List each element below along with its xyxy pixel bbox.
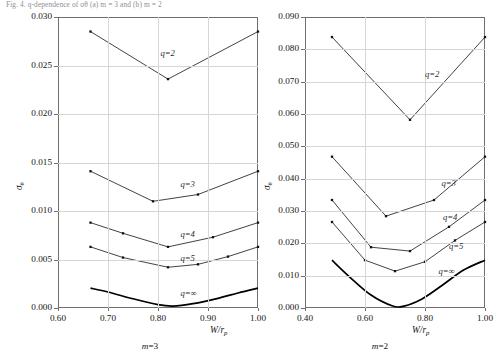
data-point-marker: [409, 119, 411, 121]
y-axis-tick: [301, 243, 305, 244]
y-gridline: [305, 211, 485, 212]
y-gridline: [305, 146, 485, 147]
x-axis-tick-label: 0.40: [283, 313, 327, 323]
y-axis-tick: [301, 17, 305, 18]
data-point-marker: [484, 36, 486, 38]
y-axis-tick-label: 0.060: [253, 109, 299, 118]
x-gridline: [425, 17, 426, 308]
panel-label-value-right: =2: [378, 341, 388, 351]
data-point-marker: [433, 199, 435, 201]
series-inline-label: q=5: [449, 242, 463, 251]
x-gridline: [365, 17, 366, 308]
data-point-marker: [409, 250, 411, 252]
data-point-marker: [484, 199, 486, 201]
x-axis-tick-label: 0.60: [343, 313, 387, 323]
y-axis-tick: [301, 114, 305, 115]
figure-root: Fig. 4. q-dependence of σθ (a) m = 3 and…: [0, 0, 495, 361]
x-axis-title-subscript-right: p: [426, 329, 429, 336]
y-axis-tick-label: 0.000: [253, 303, 299, 312]
y-gridline: [305, 179, 485, 180]
x-axis-tick-label: 1.00: [463, 313, 495, 323]
x-axis-tick: [425, 308, 426, 311]
x-axis-tick: [305, 308, 306, 311]
y-axis-tick-label: 0.080: [253, 44, 299, 53]
data-point-marker: [394, 270, 396, 272]
y-axis-tick-label: 0.010: [253, 271, 299, 280]
y-gridline: [305, 114, 485, 115]
data-series-line: [332, 157, 485, 216]
series-inline-label: q=4: [443, 213, 457, 222]
series-inline-label: q=2: [425, 70, 439, 79]
x-axis-title-symbol-right: W/r: [412, 325, 426, 335]
y-axis-title-right: σθ: [262, 182, 273, 190]
y-axis-tick: [301, 276, 305, 277]
y-axis-tick: [301, 211, 305, 212]
y-axis-tick-label: 0.040: [253, 174, 299, 183]
data-point-marker: [385, 215, 387, 217]
y-axis-tick-label: 0.090: [253, 12, 299, 21]
data-point-marker: [484, 221, 486, 223]
panel-label-right: m=2: [350, 341, 410, 351]
y-gridline: [305, 49, 485, 50]
y-axis-tick-label: 0.050: [253, 141, 299, 150]
y-axis-tick-label: 0.070: [253, 77, 299, 86]
data-point-marker: [331, 199, 333, 201]
data-point-marker: [448, 226, 450, 228]
x-axis-tick-label: 0.80: [403, 313, 447, 323]
x-axis-tick: [485, 308, 486, 311]
y-axis-tick: [301, 146, 305, 147]
y-gridline: [305, 276, 485, 277]
y-axis-title-symbol-right: σ: [262, 185, 272, 190]
y-axis-tick: [301, 308, 305, 309]
series-inline-label: q=∞: [439, 267, 455, 276]
series-inline-label: q=3: [442, 179, 456, 188]
data-point-marker: [331, 36, 333, 38]
data-point-marker: [331, 221, 333, 223]
data-point-marker: [484, 156, 486, 158]
x-axis-tick: [365, 308, 366, 311]
y-gridline: [305, 82, 485, 83]
x-axis-title-right: W/rp: [412, 325, 429, 338]
y-axis-tick: [301, 82, 305, 83]
y-axis-tick-label: 0.020: [253, 238, 299, 247]
y-axis-tick: [301, 49, 305, 50]
plot-canvas-right: [0, 0, 495, 361]
y-axis-tick-label: 0.030: [253, 206, 299, 215]
y-axis-tick: [301, 179, 305, 180]
data-point-marker: [331, 156, 333, 158]
data-point-marker: [370, 246, 372, 248]
